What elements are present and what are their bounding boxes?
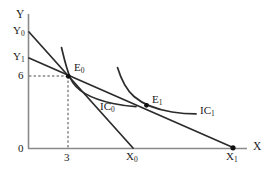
x-tick-x0-sub: 0 <box>134 155 138 164</box>
y-tick-y1-sub: 1 <box>21 55 25 64</box>
curve-label-ic0: IC0 <box>100 101 115 112</box>
y-axis-label-text: Y <box>16 8 24 20</box>
origin-label: 0 <box>18 143 24 154</box>
y-tick-six-text: 6 <box>18 69 24 81</box>
x-axis-label-text: X <box>253 140 261 152</box>
equilibrium-e1-sub: 1 <box>159 98 163 107</box>
curve-ic1-base: IC <box>200 104 211 116</box>
y-axis-label: Y <box>16 9 24 21</box>
y-tick-y1-base: Y <box>13 50 21 62</box>
x-tick-label-x0: X0 <box>126 151 138 162</box>
x-tick-label-three: 3 <box>64 152 70 163</box>
equilibrium-point-e0 <box>66 74 71 79</box>
equilibrium-e0-sub: 0 <box>81 66 85 75</box>
y-tick-y0-base: Y <box>13 24 21 36</box>
y-tick-label-y1: Y1 <box>13 51 25 62</box>
curve-ic1-sub: 1 <box>211 109 215 118</box>
equilibrium-e1-base: E <box>152 93 159 105</box>
curve-ic0-base: IC <box>100 100 111 112</box>
equilibrium-label-e0: E0 <box>74 62 84 73</box>
curve-label-ic1: IC1 <box>200 105 215 116</box>
economics-diagram: Y X 0 Y0 Y1 6 3 X0 X1 E0 E1 IC0 IC1 <box>0 0 274 173</box>
y-tick-label-six: 6 <box>18 70 24 81</box>
curve-ic0-sub: 0 <box>111 105 115 114</box>
x-tick-x1-sub: 1 <box>234 155 238 164</box>
origin-label-text: 0 <box>18 142 24 154</box>
x-axis-label: X <box>253 141 261 153</box>
x-tick-x1-base: X <box>226 150 234 162</box>
equilibrium-e0-base: E <box>74 61 81 73</box>
equilibrium-label-e1: E1 <box>152 94 162 105</box>
x-tick-x0-base: X <box>126 150 134 162</box>
budget-line-1 <box>29 58 233 148</box>
x-tick-label-x1: X1 <box>226 151 238 162</box>
equilibrium-point-e1 <box>144 103 149 108</box>
y-tick-y0-sub: 0 <box>21 29 25 38</box>
diagram-canvas <box>0 0 274 173</box>
y-tick-label-y0: Y0 <box>13 25 25 36</box>
x-tick-three-text: 3 <box>64 151 70 163</box>
